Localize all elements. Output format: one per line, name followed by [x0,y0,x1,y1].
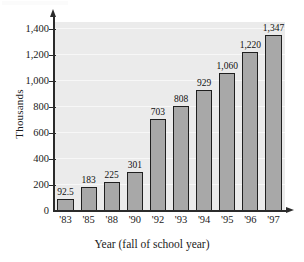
bar-group: 225 [104,22,120,211]
bar-group: 703 [150,22,166,211]
x-axis-line [53,210,287,212]
x-axis-tick-label: '94 [193,214,216,226]
x-axis-tick-label: '97 [262,214,285,226]
x-axis-tick-label: '95 [216,214,239,226]
x-axis-tick-label: '90 [123,214,146,226]
y-axis-tick-label: 800 [6,102,49,112]
bar-group: 1,060 [219,22,235,211]
bar-value-label: 301 [128,160,142,170]
y-axis-tick-label: 400 [6,154,49,164]
y-axis-tick-label: 600 [6,128,49,138]
bar[interactable] [150,119,166,211]
bar[interactable] [196,90,212,211]
y-axis-tick-label: 0 [6,206,49,216]
x-axis-tick-labels: '83'85'88'90'92'93'94'95'96'97 [54,214,285,230]
bar-group: 808 [173,22,189,211]
bar-value-label: 1,220 [240,40,261,50]
x-axis-arrow-icon [286,207,294,213]
y-axis-tick-label: 1,200 [6,50,49,60]
x-axis-tick-label: '83 [54,214,77,226]
bar-group: 1,220 [242,22,258,211]
y-axis-tick-label: 200 [6,180,49,190]
y-axis-tick-labels: 02004006008001,0001,2001,400 [6,0,49,262]
bar[interactable] [265,35,281,211]
x-axis-tick-label: '85 [77,214,100,226]
bar-group: 929 [196,22,212,211]
bar-group: 183 [81,22,97,211]
bar[interactable] [219,73,235,211]
bars-layer: 92.51832253017038089291,0601,2201,347 [54,22,285,211]
y-axis-line [53,16,55,211]
bar[interactable] [127,172,143,211]
bar[interactable] [173,106,189,211]
bar[interactable] [81,187,97,211]
x-axis-tick-label: '88 [100,214,123,226]
x-axis-tick-label: '96 [239,214,262,226]
bar[interactable] [242,52,258,211]
bar-group: 1,347 [265,22,281,211]
x-axis-tick-label: '93 [170,214,193,226]
y-axis-tick-label: 1,000 [6,76,49,86]
bar-value-label: 183 [82,175,96,185]
bar-value-label: 929 [197,78,211,88]
bar-group: 301 [127,22,143,211]
bar-group: 92.5 [57,22,73,211]
x-axis-title: Year (fall of school year) [0,238,304,250]
y-axis-tick-label: 1,400 [6,24,49,34]
bar-chart: Thousands 02004006008001,0001,2001,400 9… [0,0,304,262]
bar[interactable] [104,182,120,211]
bar-value-label: 1,347 [263,23,284,33]
bar-value-label: 808 [174,94,188,104]
x-axis-tick-label: '92 [146,214,169,226]
bar-value-label: 703 [151,107,165,117]
bar-value-label: 1,060 [217,61,238,71]
y-axis-arrow-icon [50,9,56,17]
bar-value-label: 92.5 [57,187,74,197]
bar-value-label: 225 [105,170,119,180]
